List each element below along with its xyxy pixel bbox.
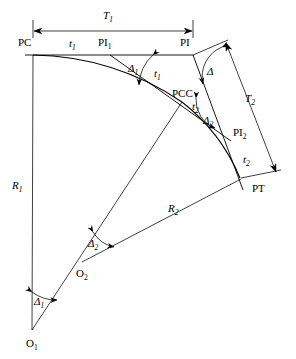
compound-curve-diagram: T1 T2 [0,0,296,359]
label-PI1: PI1 [98,36,112,51]
point-labels: PC PI1 PI PCC PI2 PT O1 O2 [18,36,265,352]
label-PI: PI [180,36,190,48]
dimension-T1: T1 [33,9,193,38]
label-PC: PC [18,36,31,48]
label-O2: O2 [76,267,88,282]
label-delta1-top: Δ1 [127,62,138,77]
arc-curve-2 [182,102,240,178]
radius-lines [32,55,241,330]
label-R1: R1 [11,179,22,194]
label-delta-apex: Δ [206,65,213,77]
label-O1: O1 [26,337,38,352]
label-t2-second: t2 [243,153,250,168]
label-PI2: PI2 [233,126,247,141]
radius-O1-to-PCC [32,102,182,330]
label-delta1-center: Δ1 [33,295,44,310]
radius-R1-to-PC [32,55,33,330]
radius-labels: R1 R2 [11,179,179,217]
label-t2-first: t2 [192,100,199,115]
T2-dimension-line [226,43,276,172]
label-PCC: PCC [172,87,193,99]
tangent-length-labels: t1 t1 t2 t2 [69,37,250,168]
label-PT: PT [252,182,265,194]
forward-tangent-line [193,55,243,190]
radius-R2-to-PT [82,179,241,262]
label-T1: T1 [103,9,113,24]
T2-extension-bottom [241,170,281,178]
label-t1-first: t1 [69,37,76,52]
angle-arcs [32,47,222,300]
label-t1-second: t1 [154,67,161,82]
T2-extension-top [193,40,228,55]
label-delta2-center: Δ2 [87,237,98,252]
angle-labels: Δ1 Δ Δ2 Δ2 Δ1 [33,62,213,310]
